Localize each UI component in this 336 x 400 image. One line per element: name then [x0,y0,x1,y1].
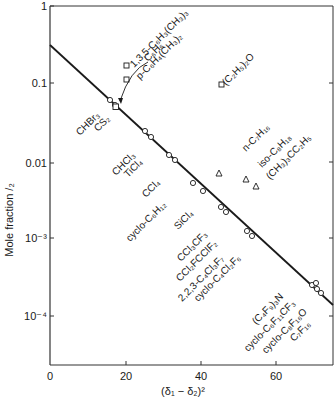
y-tick-label: 0.1 [32,77,47,89]
y-tick-label: 1 [41,0,47,12]
label-cyclohexane: cyclo-C₆H₁₂ [124,199,169,244]
label-sicl4: SiCl₄ [172,208,196,232]
x-tick-label: 60 [270,370,282,382]
label-diethyl-ether: (C₂H₅)₂O [220,51,257,88]
y-tick-label: 10⁻⁴ [24,310,47,322]
label-n-heptane: n-C₇H₁₆ [240,121,272,153]
label-ccl4: CCl₄ [140,177,162,199]
x-axis-title: (δ₁ − δ₂)² [161,385,205,397]
x-tick-label: 20 [120,370,132,382]
triangle-markers [216,170,259,189]
y-axis-title: Mole fraction /₂ [3,183,15,256]
x-tick-label: 0 [47,370,53,382]
scatter-chart: 1 0.1 0.01 10⁻³ 10⁻⁴ 0 20 40 60 (δ₁ − δ₂… [0,0,336,400]
y-tick-label: 0.01 [26,157,47,169]
x-tick-label: 40 [195,370,207,382]
square-markers [113,63,224,110]
y-tick-label: 10⁻³ [25,232,47,244]
arrowhead-icon [118,98,123,104]
